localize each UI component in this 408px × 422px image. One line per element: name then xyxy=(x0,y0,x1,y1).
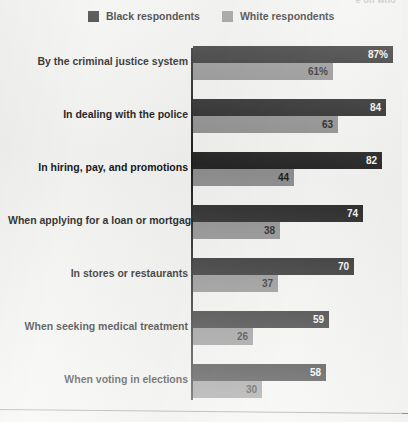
bar-group: By the criminal justice system 87% 61% xyxy=(0,44,402,86)
bar-white-respondents: 44 xyxy=(193,169,294,186)
page-divider-rule xyxy=(0,409,408,414)
bar-group: In hiring, pay, and promotions 82 44 xyxy=(0,150,402,192)
category-label: When applying for a loan or mortgage xyxy=(8,214,188,227)
bar-value-label: 58 xyxy=(310,364,321,381)
bar-black-respondents: 87% xyxy=(193,46,393,63)
category-label: In dealing with the police xyxy=(8,108,188,121)
legend-item-white-respondents: White respondents xyxy=(222,10,335,22)
bar-white-respondents: 30 xyxy=(193,381,262,398)
bar-black-respondents: 74 xyxy=(193,205,363,222)
category-label: When voting in elections xyxy=(8,373,188,386)
bar-value-label: 84 xyxy=(370,99,381,116)
legend-item-label: Black respondents xyxy=(106,10,200,22)
bar-value-label: 30 xyxy=(246,381,257,398)
chart-legend: Black respondents White respondents xyxy=(88,10,334,22)
bar-value-label: 44 xyxy=(278,169,289,186)
bar-white-respondents: 61% xyxy=(193,63,333,80)
bar-white-respondents: 38 xyxy=(193,222,280,239)
legend-swatch-icon xyxy=(88,11,99,22)
bar-black-respondents: 84 xyxy=(193,99,386,116)
bar-group: When seeking medical treatment 59 26 xyxy=(0,309,402,351)
legend-item-label: White respondents xyxy=(240,10,335,22)
bar-black-respondents: 58 xyxy=(193,364,326,381)
category-label: In hiring, pay, and promotions xyxy=(8,161,188,174)
bar-group: When voting in elections 58 30 xyxy=(0,362,402,404)
bar-group: In dealing with the police 84 63 xyxy=(0,97,402,139)
bar-value-label: 70 xyxy=(338,258,349,275)
bar-group: When applying for a loan or mortgage 74 … xyxy=(0,203,402,245)
bar-value-label: 74 xyxy=(347,205,358,222)
bar-value-label: 61% xyxy=(308,63,328,80)
bar-value-label: 37 xyxy=(262,275,273,292)
category-label: By the criminal justice system xyxy=(8,55,188,68)
bar-white-respondents: 37 xyxy=(193,275,278,292)
bar-white-respondents: 26 xyxy=(193,328,253,345)
bar-value-label: 26 xyxy=(237,328,248,345)
bar-group: In stores or restaurants 70 37 xyxy=(0,256,402,298)
headline-fragment: e on who xyxy=(355,0,396,3)
legend-item-black-respondents: Black respondents xyxy=(88,10,200,22)
bar-white-respondents: 63 xyxy=(193,116,338,133)
bar-value-label: 59 xyxy=(313,311,324,328)
category-label: In stores or restaurants xyxy=(8,267,188,280)
bar-value-label: 63 xyxy=(322,116,333,133)
plot-area: By the criminal justice system 87% 61% I… xyxy=(0,44,402,406)
bar-value-label: 87% xyxy=(368,46,388,63)
bar-black-respondents: 70 xyxy=(193,258,354,275)
bar-black-respondents: 82 xyxy=(193,152,382,169)
category-label: When seeking medical treatment xyxy=(8,320,188,333)
bar-black-respondents: 59 xyxy=(193,311,329,328)
bar-value-label: 82 xyxy=(366,152,377,169)
legend-swatch-icon xyxy=(222,11,233,22)
bar-value-label: 38 xyxy=(264,222,275,239)
